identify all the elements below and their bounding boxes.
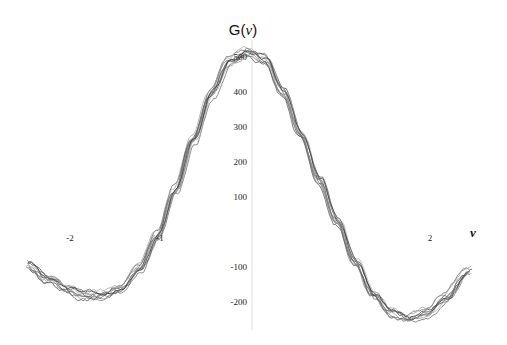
series-line xyxy=(27,54,471,320)
series-line xyxy=(28,51,472,320)
series-line xyxy=(27,51,467,319)
y-tick-label: 400 xyxy=(234,87,248,97)
series-group xyxy=(26,46,472,322)
series-line xyxy=(29,55,470,320)
x-axis-label: ν xyxy=(470,225,476,240)
chart-title: G(ν) xyxy=(229,21,257,38)
y-tick-label: 500 xyxy=(234,52,248,62)
x-tick-labels: -2-12 xyxy=(66,233,432,243)
x-tick-label: -1 xyxy=(156,233,164,243)
y-tick-label: 100 xyxy=(234,192,248,202)
y-tick-label: 200 xyxy=(234,157,248,167)
y-tick-label: -100 xyxy=(231,262,248,272)
x-tick-label: -2 xyxy=(66,233,74,243)
series-line xyxy=(27,48,469,316)
y-tick-label: 300 xyxy=(234,122,248,132)
y-tick-labels: 500400300200100-100-200 xyxy=(231,52,248,307)
series-line xyxy=(28,46,472,315)
series-line xyxy=(29,49,471,318)
chart: 500400300200100-100-200 -2-12 G(ν) ν xyxy=(0,0,507,345)
x-tick-label: 2 xyxy=(428,233,433,243)
series-line xyxy=(30,51,470,322)
y-tick-label: -200 xyxy=(231,297,248,307)
